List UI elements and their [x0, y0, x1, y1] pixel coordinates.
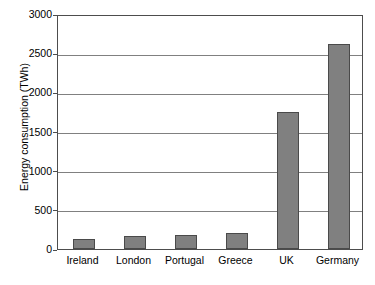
bar — [124, 236, 146, 249]
plot-area — [57, 15, 363, 250]
x-axis-tick-label: UK — [261, 253, 312, 267]
y-axis-tick-label: 1500 — [18, 127, 52, 137]
x-axis-tick-label: Portugal — [159, 253, 210, 267]
x-axis-tick-label: Germany — [312, 253, 363, 267]
bar — [73, 239, 95, 249]
bar — [226, 233, 248, 249]
x-axis-tick-label: London — [108, 253, 159, 267]
bars-layer — [58, 16, 362, 249]
x-axis-tick-labels: IrelandLondonPortugalGreeceUKGermany — [57, 253, 363, 271]
x-axis-tick-label: Greece — [210, 253, 261, 267]
y-axis-tick-label: 1000 — [18, 166, 52, 176]
y-axis-tick-label: 0 — [18, 244, 52, 254]
y-axis-tick-label: 500 — [18, 205, 52, 215]
bar — [175, 235, 197, 249]
bar-chart: Energy consumption (TWh) 050010001500200… — [0, 0, 375, 285]
x-axis-tick-label: Ireland — [57, 253, 108, 267]
y-axis-tick-labels: 050010001500200025003000 — [18, 0, 52, 285]
y-axis-tick-label: 3000 — [18, 9, 52, 19]
bar — [328, 44, 350, 249]
y-axis-tick-label: 2000 — [18, 87, 52, 97]
bar — [277, 112, 299, 249]
y-axis-tick-label: 2500 — [18, 48, 52, 58]
